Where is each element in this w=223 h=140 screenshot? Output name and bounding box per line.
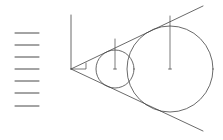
upper-tangent-line xyxy=(71,6,203,69)
incident-arrows xyxy=(15,33,39,106)
lower-tangent-line xyxy=(71,69,203,131)
cone-spheres-diagram xyxy=(0,0,223,140)
geometry xyxy=(71,6,213,131)
